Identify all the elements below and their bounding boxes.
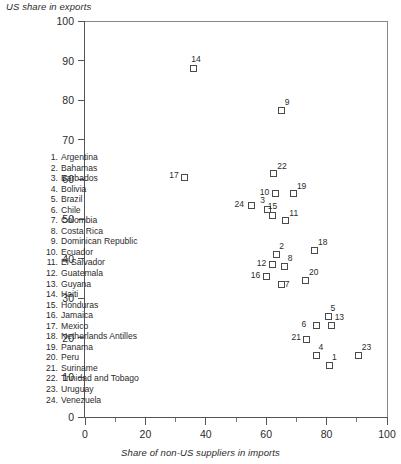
x-tick-mark (326, 418, 327, 425)
data-point-label: 16 (251, 271, 260, 280)
legend-item-number: 24. (44, 395, 58, 406)
legend-item: 24.Venezuela (44, 395, 139, 406)
legend-item-number: 20. (44, 352, 58, 363)
legend-item-number: 18. (44, 331, 58, 342)
legend-item: 7.Colombia (44, 215, 139, 226)
legend-item-label: Guatemala (61, 268, 103, 278)
legend-item-number: 10. (44, 247, 58, 258)
legend-item-number: 17. (44, 321, 58, 332)
data-point-label: 21 (291, 333, 300, 342)
data-point-marker[interactable] (313, 352, 320, 359)
legend-item-number: 6. (44, 205, 58, 216)
legend-item-number: 12. (44, 268, 58, 279)
legend-item-label: Bahamas (61, 163, 97, 173)
x-axis-title: Share of non-US suppliers in imports (0, 447, 401, 458)
legend-item-number: 15. (44, 300, 58, 311)
legend-item-number: 2. (44, 163, 58, 174)
data-point-marker[interactable] (181, 174, 188, 181)
data-point-marker[interactable] (281, 263, 288, 270)
legend-item: 11.El Salvador (44, 257, 139, 268)
x-tick-mark (387, 418, 388, 425)
x-tick-minor (236, 418, 237, 422)
legend-item: 8.Costa Rica (44, 226, 139, 237)
legend-item-label: Netherlands Antilles (61, 331, 137, 341)
legend-item-label: Uruguay (61, 384, 93, 394)
y-tick-label: 90 (14, 56, 74, 66)
legend-item-label: Brazil (61, 194, 83, 204)
legend-item: 15.Honduras (44, 300, 139, 311)
data-point-label: 1 (332, 353, 337, 362)
y-tick-mark (78, 100, 84, 101)
legend-item-label: Venezuela (61, 395, 101, 405)
legend-item: 17.Mexico (44, 321, 139, 332)
legend-item: 1.Argentina (44, 152, 139, 163)
data-point-label: 8 (288, 254, 293, 263)
x-tick-label: 0 (65, 428, 105, 440)
data-point-marker[interactable] (282, 217, 289, 224)
legend-item-label: Suriname (61, 363, 98, 373)
legend-item: 5.Brazil (44, 194, 139, 205)
y-tick-mark (78, 60, 84, 61)
legend-item: 13.Guyana (44, 279, 139, 290)
data-point-marker[interactable] (278, 281, 285, 288)
data-point-label: 13 (335, 313, 344, 322)
data-point-marker[interactable] (269, 212, 276, 219)
data-point-label: 10 (260, 188, 269, 197)
y-tick-mark (78, 21, 84, 22)
data-point-label: 24 (235, 200, 244, 209)
data-point-marker[interactable] (248, 202, 255, 209)
data-point-marker[interactable] (326, 362, 333, 369)
x-tick-minor (115, 418, 116, 422)
data-point-marker[interactable] (269, 261, 276, 268)
legend-item-label: Guyana (61, 279, 91, 289)
data-point-marker[interactable] (263, 273, 270, 280)
data-point-marker[interactable] (313, 322, 320, 329)
legend-item-label: Ecuador (61, 247, 93, 257)
data-point-label: 11 (289, 209, 298, 218)
legend-item: 16.Jamaica (44, 310, 139, 321)
legend-item-number: 8. (44, 226, 58, 237)
x-tick-label: 40 (186, 428, 226, 440)
legend-item-label: Chile (61, 205, 81, 215)
data-point-marker[interactable] (290, 190, 297, 197)
legend-item-number: 1. (44, 152, 58, 163)
data-point-marker[interactable] (302, 277, 309, 284)
legend-item: 22.Trinidad and Tobago (44, 373, 139, 384)
legend-item-label: Jamaica (61, 310, 93, 320)
data-point-marker[interactable] (190, 65, 197, 72)
x-tick-mark (145, 418, 146, 425)
legend-item-label: El Salvador (61, 257, 105, 267)
legend-item-number: 7. (44, 215, 58, 226)
legend-item-number: 5. (44, 194, 58, 205)
data-point-marker[interactable] (311, 247, 318, 254)
legend-item-number: 9. (44, 236, 58, 247)
y-tick-mark (78, 139, 84, 140)
data-point-label: 19 (297, 182, 306, 191)
legend-item-number: 22. (44, 373, 58, 384)
data-point-marker[interactable] (270, 170, 277, 177)
data-point-marker[interactable] (272, 190, 279, 197)
data-point-marker[interactable] (303, 336, 310, 343)
legend-item: 23.Uruguay (44, 384, 139, 395)
data-point-label: 5 (331, 304, 336, 313)
y-tick-mark (78, 417, 84, 418)
legend-item-number: 16. (44, 310, 58, 321)
scatter-chart: US share in exports 01020304050607080901… (0, 0, 401, 464)
legend-item-label: Mexico (61, 321, 88, 331)
data-point-label: 9 (285, 98, 290, 107)
data-point-marker[interactable] (278, 107, 285, 114)
data-point-label: 6 (302, 320, 307, 329)
legend-item-label: Colombia (61, 215, 97, 225)
x-tick-mark (266, 418, 267, 425)
data-point-marker[interactable] (325, 313, 332, 320)
legend-item: 12.Guatemala (44, 268, 139, 279)
y-axis-title: US share in exports (6, 1, 91, 12)
legend-item: 10.Ecuador (44, 247, 139, 258)
data-point-marker[interactable] (328, 322, 335, 329)
data-point-label: 15 (268, 202, 277, 211)
data-point-label: 22 (277, 162, 286, 171)
data-point-marker[interactable] (273, 251, 280, 258)
data-point-label: 4 (319, 343, 324, 352)
data-point-label: 3 (260, 196, 265, 205)
data-point-marker[interactable] (355, 352, 362, 359)
